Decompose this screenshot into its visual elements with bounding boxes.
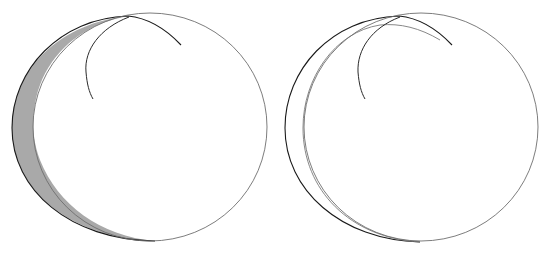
diagram-canvas xyxy=(0,0,556,264)
inner-small-arc xyxy=(86,17,129,99)
panel-right xyxy=(285,13,538,242)
panel-left xyxy=(12,13,267,241)
outer-eccentric-arc xyxy=(12,16,181,241)
offset-circle-arc xyxy=(303,25,440,242)
outer-eccentric-arc xyxy=(285,16,452,242)
main-circle xyxy=(304,13,538,241)
figure xyxy=(0,0,556,264)
